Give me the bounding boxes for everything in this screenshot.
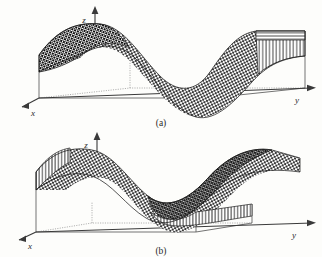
surface-plot-panel-b: x y z (b)	[0, 128, 322, 257]
panel-b-background	[0, 128, 322, 257]
surface-plateau-cap-a	[256, 31, 305, 40]
x-axis-label-a: x	[30, 108, 35, 118]
z-axis-label-b: z	[83, 140, 88, 150]
y-axis-label-a: y	[294, 95, 299, 105]
panel-caption-b: (b)	[155, 246, 166, 257]
z-axis-label-a: z	[81, 15, 86, 25]
surface-plot-panel-a: x y z (a)	[0, 0, 322, 130]
y-axis-label-b: y	[291, 230, 296, 240]
figure-root: x y z (a)	[0, 0, 322, 257]
x-axis-label-b: x	[27, 241, 32, 251]
